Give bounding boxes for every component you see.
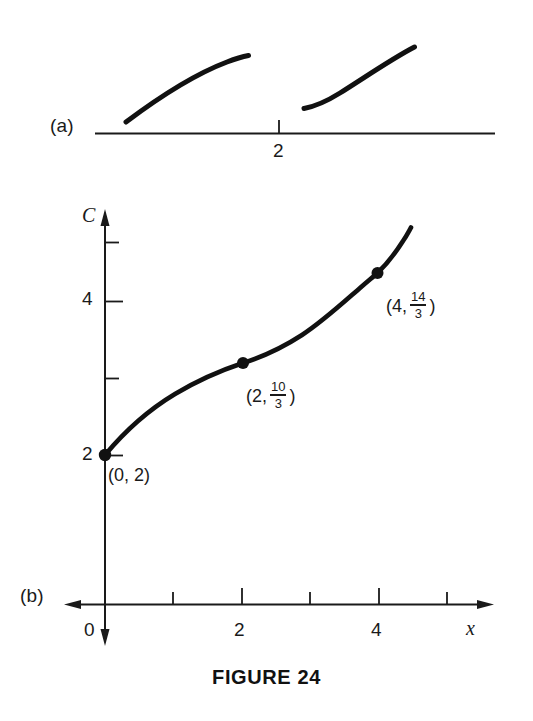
origin-label: 0 xyxy=(84,619,95,641)
point-label-0-2: (0, 2) xyxy=(108,466,150,484)
figure-drawing xyxy=(0,0,533,721)
x-axis-tick-label-4: 4 xyxy=(371,619,382,641)
y-axis-tick-label-2: 2 xyxy=(82,443,93,465)
point-label-4-suffix: ) xyxy=(429,297,435,315)
fraction-denominator: 3 xyxy=(414,306,423,320)
point-label-2-suffix: ) xyxy=(289,387,295,405)
y-axis-arrow-down xyxy=(101,629,110,646)
data-point-2-10-3 xyxy=(237,357,249,369)
panel-a-group xyxy=(95,47,495,134)
panel-a-label: (a) xyxy=(50,115,74,137)
y-axis-tick-label-4: 4 xyxy=(82,288,93,310)
point-label-4-14-3: (4, 14 3 ) xyxy=(386,291,435,321)
point-label-4-prefix: (4, xyxy=(386,297,407,315)
point-label-0-2-text: (0, 2) xyxy=(108,466,150,484)
fraction-numerator: 10 xyxy=(270,380,286,394)
figure-24: (a) (b) 2 C x 0 2 4 2 4 (0, 2) (2, 10 3 … xyxy=(0,0,533,721)
cost-curve xyxy=(105,228,411,456)
data-point-0-2 xyxy=(99,449,111,461)
data-point-4-14-3 xyxy=(372,267,384,279)
panel-a-tick-label-2: 2 xyxy=(273,140,284,162)
panel-a-right-curve xyxy=(304,47,415,109)
panel-b-label: (b) xyxy=(20,585,44,607)
panel-b-group xyxy=(64,209,494,646)
figure-caption: FIGURE 24 xyxy=(0,666,533,689)
x-axis-tick-label-2: 2 xyxy=(234,619,245,641)
panel-a-left-curve xyxy=(126,56,249,123)
fraction-numerator: 14 xyxy=(410,290,426,304)
fraction-14-3: 14 3 xyxy=(410,290,426,320)
x-axis-arrow-right xyxy=(477,600,494,609)
point-label-2-10-3: (2, 10 3 ) xyxy=(246,381,295,411)
x-axis-arrow-left xyxy=(64,600,81,609)
y-axis-arrow-up xyxy=(101,209,110,226)
point-label-2-prefix: (2, xyxy=(246,387,267,405)
fraction-denominator: 3 xyxy=(274,396,283,410)
y-axis-name-label: C xyxy=(82,204,95,227)
x-axis-name-label: x xyxy=(466,617,475,640)
fraction-10-3: 10 3 xyxy=(270,380,286,410)
